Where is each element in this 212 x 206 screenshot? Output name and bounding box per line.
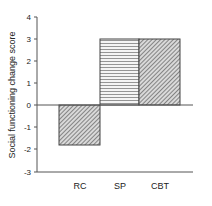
bars [59, 39, 180, 145]
category-label-sp: SP [114, 181, 126, 191]
bar-cbt [139, 39, 180, 105]
bar-chart: Social functioning change score 4 3 2 1 … [0, 0, 212, 206]
bar-sp [100, 39, 139, 105]
bar-rc [59, 105, 100, 145]
y-tick-label: -3 [24, 168, 32, 177]
y-tick-label: 1 [27, 79, 32, 88]
y-tick-label: 3 [27, 35, 32, 44]
category-label-cbt: CBT [151, 181, 170, 191]
category-label-rc: RC [74, 181, 87, 191]
y-tick-label: 0 [27, 101, 32, 110]
y-tick-labels: 4 3 2 1 0 -1 -2 -3 [24, 13, 32, 177]
y-tick-label: 4 [27, 13, 32, 22]
y-tick-label: -2 [24, 145, 32, 154]
y-tick-label: -1 [24, 123, 32, 132]
x-category-labels: RC SP CBT [74, 181, 170, 191]
y-tick-label: 2 [27, 57, 32, 66]
y-axis-title: Social functioning change score [7, 31, 17, 158]
